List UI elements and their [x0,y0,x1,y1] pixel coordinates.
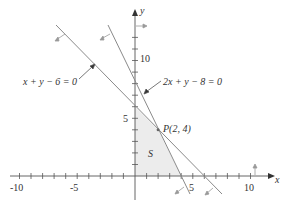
x-tick-label-5: 5 [189,182,194,193]
y-axis-label: y [139,5,145,16]
point-p [157,128,160,131]
pointer-arrow-icon [79,64,95,79]
x-axis-label: x [274,174,280,185]
arrow-icon [253,164,257,175]
point-p-label: P(2, 4) [162,123,191,135]
x-tick-label-neg5: -5 [70,182,78,193]
arrow-icon [55,34,65,41]
y-axis-arrow-icon [132,9,138,16]
y-tick-label-5: 5 [123,113,128,124]
y-tick-label-10: 10 [140,53,150,64]
arrow-icon [100,34,110,40]
region-s-label: S [148,148,153,159]
arrow-icon [175,187,184,194]
diagram-canvas: x y -10 -5 5 10 5 10 x + y − 6 = 0 2x + … [0,0,284,207]
equation-label-line1: x + y − 6 = 0 [22,76,77,87]
x-tick-label-neg10: -10 [10,182,23,193]
equation-label-line2: 2x + y − 8 = 0 [163,76,222,87]
arrow-icon [205,188,213,195]
x-axis-arrow-icon [268,173,275,179]
region-s [135,107,181,176]
arrow-icon [136,24,147,28]
pointer-arrow-icon [144,81,161,94]
x-tick-label-10: 10 [244,182,254,193]
